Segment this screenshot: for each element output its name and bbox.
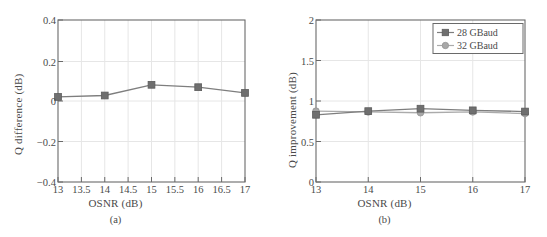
xtick-label-b-2: 15 xyxy=(415,184,426,195)
figure-container: 0.4 0.2 0 −0.2 −0.4 13 13.5 14 14.5 15 1… xyxy=(0,0,547,237)
data-point-marker xyxy=(148,81,155,88)
xtick-label-a-4: 15 xyxy=(146,184,157,195)
ytick-label-a-3: −0.2 xyxy=(28,136,56,147)
xtick-label-b-1: 14 xyxy=(363,184,374,195)
xtick-label-a-2: 14 xyxy=(100,184,111,195)
legend-marker-square-icon xyxy=(442,29,448,35)
chart-panel-a: 0.4 0.2 0 −0.2 −0.4 13 13.5 14 14.5 15 1… xyxy=(0,0,273,237)
ytick-label-b-0: 2 xyxy=(290,15,314,26)
xtick-label-a-6: 16 xyxy=(193,184,204,195)
data-point-marker xyxy=(101,92,108,99)
legend-label-32gbaud: 32 GBaud xyxy=(457,40,498,51)
data-point-marker xyxy=(195,84,202,91)
xtick-label-a-0: 13 xyxy=(53,184,64,195)
data-point-marker xyxy=(365,108,372,115)
xtick-marks-a xyxy=(58,177,245,182)
ytick-label-a-1: 0.2 xyxy=(32,56,56,67)
subcaption-a: (a) xyxy=(0,214,252,225)
ytick-label-a-0: 0.4 xyxy=(32,15,56,26)
data-point-marker xyxy=(242,90,249,97)
xtick-label-b-3: 16 xyxy=(468,184,479,195)
xtick-label-a-5: 15.5 xyxy=(166,184,184,195)
data-point-marker xyxy=(313,111,320,118)
legend-label-28gbaud: 28 GBaud xyxy=(457,27,498,38)
ytick-marks-b xyxy=(316,20,321,182)
ytick-marks-a xyxy=(58,20,63,182)
data-point-marker xyxy=(522,108,529,115)
ytick-label-a-2: 0 xyxy=(32,96,56,107)
xtick-label-a-7: 16.5 xyxy=(212,184,230,195)
x-axis-title-a: OSNR (dB) xyxy=(0,197,252,209)
gridlines-a xyxy=(58,20,245,182)
x-axis-title-b: OSNR (dB) xyxy=(248,197,521,209)
xtick-label-a-1: 13.5 xyxy=(72,184,90,195)
ytick-label-b-1: 1.5 xyxy=(288,55,314,66)
data-point-marker xyxy=(469,107,476,114)
y-axis-title-b: Q improvement (dB) xyxy=(286,72,298,168)
xtick-label-b-4: 17 xyxy=(520,184,531,195)
data-point-marker xyxy=(417,105,424,112)
xtick-label-a-8: 17 xyxy=(240,184,251,195)
y-axis-title-a: Q difference (dB) xyxy=(12,74,24,155)
legend-marker-circle-icon xyxy=(442,42,448,48)
xtick-marks-b xyxy=(316,177,525,182)
xtick-label-b-0: 13 xyxy=(311,184,322,195)
subcaption-b: (b) xyxy=(248,214,521,225)
xtick-label-a-3: 14.5 xyxy=(119,184,137,195)
legend-b: 28 GBaud 32 GBaud xyxy=(433,24,523,54)
chart-panel-b: 28 GBaud 32 GBaud 2 1.5 1 0.5 0 13 14 15… xyxy=(274,0,547,237)
